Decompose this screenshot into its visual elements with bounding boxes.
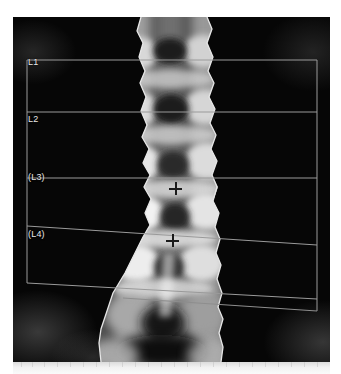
roi-label-l3: (L3) (28, 172, 45, 182)
roi-divider-l4-bottom (27, 283, 317, 299)
roi-bottom-border (123, 298, 317, 311)
roi-label-l2: L2 (28, 114, 38, 124)
spine-outline-right (207, 17, 223, 362)
soft-tissue-haze (13, 17, 93, 97)
marker-l4-crosshair[interactable] (166, 234, 179, 247)
soft-tissue-haze (238, 282, 330, 362)
roi-divider-l3-l4 (27, 226, 317, 245)
roi-overlay[interactable] (13, 17, 330, 362)
dexa-scan-viewer: L1 L2 (L3) (L4) (0, 0, 341, 374)
soft-tissue-haze (243, 17, 330, 107)
soft-tissue-haze (33, 317, 153, 362)
roi-label-l4: (L4) (28, 229, 45, 239)
marker-l3-crosshair[interactable] (169, 182, 182, 195)
soft-tissue-haze (13, 272, 123, 362)
vertebral-column-image (13, 17, 330, 362)
scan-image[interactable]: L1 L2 (L3) (L4) (13, 17, 330, 362)
spine-outline-left (99, 17, 151, 362)
roi-label-l1: L1 (28, 57, 38, 67)
scan-footer-strip (13, 362, 330, 374)
